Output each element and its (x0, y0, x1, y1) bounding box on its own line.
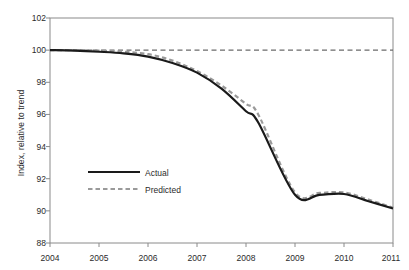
series-line-actual (50, 50, 393, 208)
x-tick-label: 2007 (177, 254, 217, 263)
legend-label-predicted: Predicted (145, 186, 181, 195)
y-tick-label: 88 (24, 239, 46, 248)
y-tick-label: 102 (24, 14, 46, 23)
x-tick-marks (50, 243, 393, 247)
x-tick-label: 2008 (226, 254, 266, 263)
x-tick-label: 2005 (79, 254, 119, 263)
y-tick-marks (46, 18, 50, 243)
y-tick-label: 90 (24, 207, 46, 216)
x-tick-label: 2010 (324, 254, 364, 263)
x-tick-label: 2006 (128, 254, 168, 263)
x-tick-label: 2011 (371, 254, 409, 263)
x-tick-label: 2004 (30, 254, 70, 263)
y-tick-label: 96 (24, 110, 46, 119)
y-tick-label: 100 (24, 46, 46, 55)
legend-label-actual: Actual (145, 169, 169, 178)
y-tick-label: 98 (24, 78, 46, 87)
series-line-predicted (50, 50, 393, 208)
x-tick-label: 2009 (275, 254, 315, 263)
y-tick-label: 94 (24, 143, 46, 152)
y-tick-labels: 102 100 98 96 94 92 90 88 (22, 0, 46, 270)
plot-canvas (0, 0, 409, 270)
chart-figure: Index, relative to trend 102 100 98 96 9… (0, 0, 409, 270)
y-tick-label: 92 (24, 175, 46, 184)
